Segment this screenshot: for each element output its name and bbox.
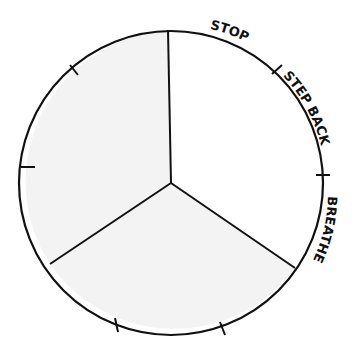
segmented-circle-diagram: STOP STEP BACK BREATHE (0, 0, 355, 351)
